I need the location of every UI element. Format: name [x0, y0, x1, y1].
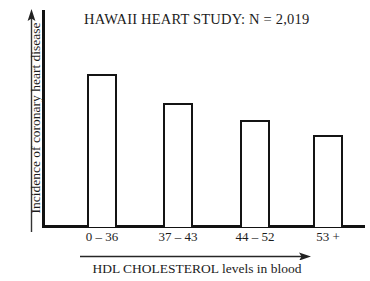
bar-53-plus[interactable]	[313, 135, 343, 227]
bar-chart: HAWAII HEART STUDY: N = 2,019 Incidence …	[0, 0, 370, 281]
bar-44-52[interactable]	[240, 120, 270, 227]
bar-37-43[interactable]	[163, 103, 193, 227]
x-tick-label-2: 44 – 52	[215, 229, 295, 245]
x-axis-arrow-icon	[80, 248, 312, 260]
x-tick-label-3: 53 +	[288, 229, 368, 245]
x-tick-label-0: 0 – 36	[62, 229, 142, 245]
x-axis-label: HDL CHOLESTEROL levels in blood	[52, 261, 342, 277]
bar-0-36[interactable]	[87, 74, 117, 227]
x-tick-label-1: 37 – 43	[138, 229, 218, 245]
